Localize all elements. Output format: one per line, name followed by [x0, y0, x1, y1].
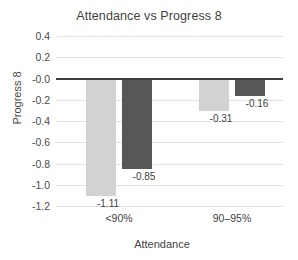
bar: [122, 79, 152, 169]
y-axis-tick-label: -0.0: [32, 73, 50, 85]
bar-chart: Attendance vs Progress 8 Progress 8 0.40…: [0, 0, 298, 260]
y-axis-title: Progress 8: [11, 38, 23, 158]
x-axis-title: Attendance: [40, 238, 284, 250]
y-axis-tick-label: 0.4: [35, 30, 50, 42]
plot-area: 0.40.2-0.0-0.2-0.4-0.6-0.8-1.0-1.2 -1.11…: [56, 36, 283, 206]
y-axis-tick-label: -1.2: [32, 200, 50, 212]
gridline: [56, 206, 283, 207]
bar: [199, 79, 229, 112]
gridline: [56, 36, 283, 37]
gridline: [56, 57, 283, 58]
bar: [235, 79, 265, 96]
y-axis-tick-label: -0.6: [32, 136, 50, 148]
bar-value-label: -0.31: [210, 113, 233, 124]
y-axis-tick-label: -0.4: [32, 115, 50, 127]
y-axis-tick-label: -0.2: [32, 94, 50, 106]
bar-value-label: -0.85: [133, 171, 156, 182]
x-axis-category-label: <90%: [105, 212, 132, 224]
y-axis-tick-label: -0.8: [32, 158, 50, 170]
bar: [86, 79, 116, 197]
y-axis-tick-label: 0.2: [35, 51, 50, 63]
x-axis-category-label: 90–95%: [213, 212, 252, 224]
chart-title: Attendance vs Progress 8: [0, 9, 298, 23]
bar-value-label: -1.11: [97, 198, 119, 209]
y-axis-tick-label: -1.0: [32, 179, 50, 191]
zero-line: [56, 78, 283, 80]
bar-value-label: -0.16: [246, 98, 269, 109]
